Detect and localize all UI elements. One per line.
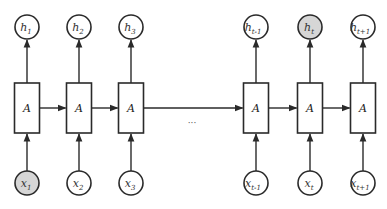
rnn-cell-label: A: [126, 102, 135, 115]
rnn-cell-label: A: [74, 102, 83, 115]
rnn-cell-label: A: [251, 102, 260, 115]
rnn-cell-label: A: [358, 102, 367, 115]
rnn-unrolled-diagram: Ah1x1Ah2x2Ah3x3Aht-1xt-1AhtxtAht+1xt+1 ·…: [0, 0, 387, 209]
sequence-ellipsis: ···: [188, 118, 197, 128]
rnn-cell-label: A: [305, 102, 314, 115]
rnn-cell-label: A: [22, 102, 31, 115]
nodes-layer: Ah1x1Ah2x2Ah3x3Aht-1xt-1AhtxtAht+1xt+1: [15, 15, 376, 195]
